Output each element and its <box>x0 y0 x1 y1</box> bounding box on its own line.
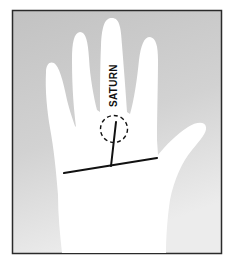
saturn-label: SATURN <box>108 64 119 107</box>
palmistry-diagram: SATURN <box>0 0 232 263</box>
